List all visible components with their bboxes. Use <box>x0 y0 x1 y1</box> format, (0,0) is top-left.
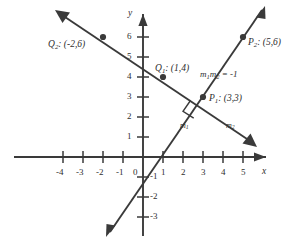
y-tick-label--1: -1 <box>150 172 158 181</box>
label-p1-coords: (3,3) <box>224 93 242 103</box>
line-m2-arrowhead-lower-right <box>243 134 258 148</box>
point-q1 <box>160 74 166 80</box>
y-tick-label-5: 5 <box>127 52 132 61</box>
x-tick-label-3: 3 <box>201 168 206 177</box>
y-tick-label-1: 1 <box>127 132 132 141</box>
y-tick-label-3: 3 <box>127 92 132 101</box>
y-tick-label-4: 4 <box>127 72 132 81</box>
label-q2-name: Q <box>48 39 55 49</box>
line-m1 <box>110 10 262 232</box>
label-q1-name: Q <box>155 63 162 73</box>
line-m2-arrowhead-upper-left <box>55 10 70 23</box>
label-slope-m2: m2 <box>226 122 235 131</box>
label-q1-coords: (1,4) <box>171 63 189 73</box>
coordinate-plane-svg <box>0 0 289 246</box>
y-tick-label-6: 6 <box>127 32 132 41</box>
x-axis-arrowhead <box>254 152 266 161</box>
label-p1: P1: (3,3) <box>209 94 242 105</box>
label-q1: Q1: (1,4) <box>155 64 189 75</box>
x-tick-label-2: 2 <box>181 168 186 177</box>
x-tick-label--3: -3 <box>76 168 84 177</box>
label-slope-m2-subscript: 2 <box>232 124 235 130</box>
y-axis-label: y <box>128 9 132 19</box>
label-slope-m1: m1 <box>180 122 189 131</box>
x-axis-label: x <box>262 167 266 177</box>
relation-equals: = -1 <box>219 69 237 79</box>
label-slope-relation: m1m2 = -1 <box>200 70 238 80</box>
point-q2 <box>100 34 106 40</box>
y-tick-label-2: 2 <box>127 112 132 121</box>
x-tick-label--4: -4 <box>56 168 64 177</box>
x-tick-label--1: -1 <box>116 168 124 177</box>
y-axis-arrowhead <box>138 14 147 26</box>
label-q2-coords: (-2,6) <box>64 39 85 49</box>
origin-label: 0 <box>133 168 138 177</box>
y-tick-label--2: -2 <box>150 192 158 201</box>
line-m1-arrowhead-upper-right <box>256 6 266 19</box>
perpendicular-lines-figure: -4 -3 -2 -1 0 1 2 3 4 5 1 2 3 4 5 6 -1 -… <box>0 0 289 246</box>
label-p2: P2: (5,6) <box>248 38 281 49</box>
x-tick-label-4: 4 <box>221 168 226 177</box>
x-tick-label-1: 1 <box>161 168 166 177</box>
line-m1-arrowhead-lower-left <box>106 224 116 237</box>
x-tick-label-5: 5 <box>241 168 246 177</box>
y-tick-label--3: -3 <box>150 212 158 221</box>
label-slope-m1-subscript: 1 <box>186 124 189 130</box>
label-p2-coords: (5,6) <box>263 37 281 47</box>
label-q2: Q2: (-2,6) <box>48 40 85 51</box>
x-tick-label--2: -2 <box>96 168 104 177</box>
point-p1 <box>200 94 206 100</box>
point-p2 <box>240 34 246 40</box>
